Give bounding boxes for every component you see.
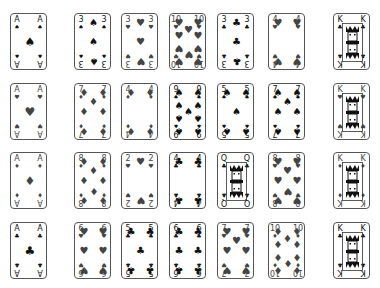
heart-pip-icon: ♥ bbox=[98, 246, 108, 256]
card-index-bl: 3 ♥ bbox=[123, 53, 133, 67]
spade-icon: ♠ bbox=[12, 24, 22, 30]
diamond-pip-icon: ♦ bbox=[89, 97, 99, 107]
card-index-br: A ♥ bbox=[35, 123, 45, 137]
heart-icon: ♥ bbox=[146, 163, 156, 169]
diamond-pip-icon: ♦ bbox=[145, 126, 155, 136]
card-2-of-hearts[interactable]: 2 ♥ 2 ♥ 2 ♥ 2 ♥ ♥♥ bbox=[121, 152, 158, 209]
card-index-br: 3 ♠ bbox=[99, 53, 109, 67]
spade-pip-icon: ♠ bbox=[292, 107, 302, 117]
card-K-of-clubs[interactable]: K ♣ K ♣ K ♣ K ♣ bbox=[333, 13, 370, 70]
card-Q-of-clubs[interactable]: Q ♣ Q ♣ Q ♣ Q ♣ bbox=[217, 152, 254, 209]
king-portrait-icon bbox=[342, 23, 363, 62]
club-pip-icon: ♣ bbox=[232, 56, 242, 66]
card-3-of-hearts[interactable]: 3 ♥ 3 ♥ 3 ♥ 3 ♥ ♥♥♥ bbox=[121, 13, 158, 70]
heart-pip-icon: ♥ bbox=[184, 49, 194, 59]
club-icon: ♣ bbox=[242, 24, 252, 30]
diamond-pip-icon: ♦ bbox=[98, 176, 108, 186]
card-7-of-spades[interactable]: 7 ♠ 7 ♠ 7 ♠ 7 ♠ ♠♠♠♠♠♠♠ bbox=[268, 83, 305, 140]
club-pip-icon: ♣ bbox=[193, 157, 203, 167]
rank-label: A bbox=[35, 129, 45, 137]
heart-pip-icon: ♥ bbox=[273, 56, 283, 66]
club-pip-icon: ♣ bbox=[174, 157, 184, 167]
card-index-br: A ♦ bbox=[35, 192, 45, 206]
heart-pip-icon: ♥ bbox=[222, 265, 232, 275]
heart-pip-icon: ♥ bbox=[292, 157, 302, 167]
spade-pip-icon: ♠ bbox=[25, 37, 35, 47]
heart-icon: ♥ bbox=[146, 192, 156, 198]
card-index-tr: A ♥ bbox=[35, 86, 45, 100]
card-index-br: A ♣ bbox=[35, 262, 45, 276]
card-K-of-clubs[interactable]: K ♣ K ♣ K ♣ K ♣ bbox=[333, 222, 370, 279]
card-8-of-hearts[interactable]: 8 ♥ 8 ♥ 8 ♥ 8 ♥ ♥♥♥♥♥♥♥♥ bbox=[268, 152, 305, 209]
spade-icon: ♠ bbox=[99, 24, 109, 30]
card-6-of-hearts[interactable]: 6 ♥ 6 ♥ 6 ♥ 6 ♥ ♥♥♥♥♥♥ bbox=[74, 222, 111, 279]
card-7-of-hearts[interactable]: 7 ♥ 7 ♥ 7 ♥ 7 ♥ ♥♥♥♥♥♥♥ bbox=[217, 222, 254, 279]
heart-pip-icon: ♥ bbox=[273, 195, 283, 205]
spade-pip-icon: ♠ bbox=[174, 88, 184, 98]
club-pip-icon: ♣ bbox=[145, 227, 155, 237]
rank-label: A bbox=[35, 59, 45, 67]
diamond-pip-icon: ♦ bbox=[98, 88, 108, 98]
diamond-pip-icon: ♦ bbox=[283, 234, 293, 244]
card-K-of-diamonds[interactable]: K ♦ K ♦ K ♦ K ♦ bbox=[333, 152, 370, 209]
diamond-pip-icon: ♦ bbox=[79, 157, 89, 167]
card-index-tl: 2 ♥ bbox=[123, 155, 133, 169]
card-6-of-clubs[interactable]: 6 ♣ 6 ♣ 6 ♣ 6 ♣ ♣♣♣♣♣♣ bbox=[169, 222, 206, 279]
card-4-of-clubs[interactable]: 4 ♣ 4 ♣ 4 ♣ 4 ♣ ♣♣♣♣ bbox=[169, 152, 206, 209]
heart-pip-icon: ♥ bbox=[273, 157, 283, 167]
club-pip-icon: ♣ bbox=[136, 246, 146, 256]
rank-label: A bbox=[35, 268, 45, 276]
diamond-pip-icon: ♦ bbox=[98, 195, 108, 205]
diamond-icon: ♦ bbox=[35, 163, 45, 169]
spade-pip-icon: ♠ bbox=[174, 126, 184, 136]
card-index-tr: A ♠ bbox=[35, 16, 45, 30]
card-10-of-hearts[interactable]: 10 ♥ 10 ♥ 10 ♥ 10 ♥ ♥♥♥♥♥♥♥♥♥♥ bbox=[169, 13, 206, 70]
spade-pip-icon: ♠ bbox=[283, 97, 293, 107]
spade-pip-icon: ♠ bbox=[174, 101, 184, 111]
spade-pip-icon: ♠ bbox=[292, 88, 302, 98]
heart-icon: ♥ bbox=[12, 123, 22, 129]
diamond-pip-icon: ♦ bbox=[126, 126, 136, 136]
card-3-of-clubs[interactable]: 3 ♣ 3 ♣ 3 ♣ 3 ♣ ♣♣♣ bbox=[217, 13, 254, 70]
card-7-of-diamonds[interactable]: 7 ♦ 7 ♦ 7 ♦ 7 ♦ ♦♦♦♦♦♦♦ bbox=[74, 83, 111, 140]
king-portrait-icon bbox=[342, 162, 363, 201]
card-9-of-spades[interactable]: 9 ♠ 9 ♠ 9 ♠ 9 ♠ ♠♠♠♠♠♠♠♠♠ bbox=[169, 83, 206, 140]
spade-pip-icon: ♠ bbox=[232, 107, 242, 117]
heart-pip-icon: ♥ bbox=[193, 18, 203, 28]
spade-pip-icon: ♠ bbox=[222, 88, 232, 98]
heart-pip-icon: ♥ bbox=[193, 43, 203, 53]
card-A-of-spades[interactable]: A ♠ A ♠ A ♠ A ♠ ♠ bbox=[10, 13, 47, 70]
card-index-tr: 3 ♣ bbox=[242, 16, 252, 30]
card-4-of-hearts[interactable]: 4 ♥ 4 ♥ 4 ♥ 4 ♥ ♥♥♥♥ bbox=[268, 13, 305, 70]
card-5-of-spades[interactable]: 5 ♠ 5 ♠ 5 ♠ 5 ♠ ♠♠♠♠♠ bbox=[217, 83, 254, 140]
card-A-of-hearts[interactable]: A ♥ A ♥ A ♥ A ♥ ♥ bbox=[10, 83, 47, 140]
heart-pip-icon: ♥ bbox=[292, 18, 302, 28]
card-index-bl: A ♣ bbox=[12, 262, 22, 276]
card-10-of-diamonds[interactable]: 10 ♦ 10 ♦ 10 ♦ 10 ♦ ♦♦♦♦♦♦♦♦♦♦ bbox=[268, 222, 305, 279]
rank-label: A bbox=[12, 129, 22, 137]
card-K-of-hearts[interactable]: K ♥ K ♥ K ♥ K ♥ bbox=[333, 83, 370, 140]
card-8-of-diamonds[interactable]: 8 ♦ 8 ♦ 8 ♦ 8 ♦ ♦♦♦♦♦♦♦♦ bbox=[74, 152, 111, 209]
rank-label: 3 bbox=[99, 59, 109, 67]
heart-icon: ♥ bbox=[123, 24, 133, 30]
card-4-of-diamonds[interactable]: 4 ♦ 4 ♦ 4 ♦ 4 ♦ ♦♦♦♦ bbox=[121, 83, 158, 140]
club-icon: ♣ bbox=[12, 262, 22, 268]
club-pip-icon: ♣ bbox=[126, 227, 136, 237]
heart-icon: ♥ bbox=[123, 53, 133, 59]
spade-pip-icon: ♠ bbox=[193, 101, 203, 111]
card-index-tl: 3 ♠ bbox=[76, 16, 86, 30]
rank-label: A bbox=[12, 198, 22, 206]
heart-pip-icon: ♥ bbox=[79, 246, 89, 256]
rank-label: 2 bbox=[146, 198, 156, 206]
card-3-of-spades[interactable]: 3 ♠ 3 ♠ 3 ♠ 3 ♠ ♠♠♠ bbox=[74, 13, 111, 70]
card-A-of-diamonds[interactable]: A ♦ A ♦ A ♦ A ♦ ♦ bbox=[10, 152, 47, 209]
card-index-bl: 3 ♣ bbox=[219, 53, 229, 67]
card-5-of-clubs[interactable]: 5 ♣ 5 ♣ 5 ♣ 5 ♣ ♣♣♣♣♣ bbox=[121, 222, 158, 279]
card-index-bl: 3 ♠ bbox=[76, 53, 86, 67]
club-pip-icon: ♣ bbox=[174, 265, 184, 275]
card-A-of-clubs[interactable]: A ♣ A ♣ A ♣ A ♣ ♣ bbox=[10, 222, 47, 279]
heart-pip-icon: ♥ bbox=[174, 56, 184, 66]
heart-pip-icon: ♥ bbox=[79, 265, 89, 275]
spade-icon: ♠ bbox=[76, 24, 86, 30]
queen-portrait-icon bbox=[226, 162, 247, 201]
